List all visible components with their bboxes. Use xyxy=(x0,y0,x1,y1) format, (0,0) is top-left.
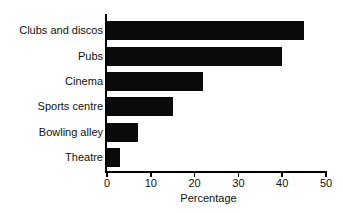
x-axis-line xyxy=(105,171,327,173)
category-label: Pubs xyxy=(78,51,103,62)
category-label: Cinema xyxy=(65,76,103,87)
x-axis-tick-label: 0 xyxy=(92,178,122,189)
bar xyxy=(107,72,203,91)
category-label: Theatre xyxy=(65,152,103,163)
category-label: Clubs and discos xyxy=(19,25,103,36)
bar xyxy=(107,47,282,66)
bar xyxy=(107,148,120,167)
bar-chart: Clubs and discosPubsCinemaSports centreB… xyxy=(0,0,343,213)
x-axis-title: Percentage xyxy=(0,193,343,204)
bar xyxy=(107,97,173,116)
bar xyxy=(107,123,138,142)
x-axis-tick-label: 30 xyxy=(223,178,253,189)
category-label: Bowling alley xyxy=(39,127,103,138)
x-axis-tick-label: 20 xyxy=(180,178,210,189)
category-label: Sports centre xyxy=(38,101,103,112)
x-axis-tick-label: 10 xyxy=(136,178,166,189)
x-axis-tick-label: 40 xyxy=(267,178,297,189)
x-axis-tick-label: 50 xyxy=(311,178,341,189)
bar xyxy=(107,21,304,40)
